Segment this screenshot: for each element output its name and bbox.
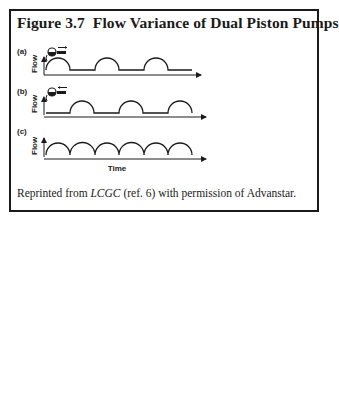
caption-prefix: Reprinted from <box>17 187 90 199</box>
figure-frame: Figure 3.7 Flow Variance of Dual Piston … <box>9 9 319 212</box>
panel-c-waveform <box>46 143 192 156</box>
flow-diagram: Flow Flow Flow Time <box>11 11 317 210</box>
panel-b-ylabel: Flow <box>30 94 39 113</box>
caption-journal: LCGC <box>90 187 120 199</box>
panel-a-waveform <box>46 58 192 70</box>
panel-c-plot <box>44 138 206 159</box>
panel-a-ylabel: Flow <box>30 54 39 73</box>
x-axis-label: Time <box>108 164 127 173</box>
caption-suffix: (ref. 6) with permission of Advanstar. <box>121 187 297 199</box>
panel-b-plot <box>44 97 206 117</box>
panel-a-plot <box>44 57 201 75</box>
panel-c-ylabel: Flow <box>30 136 39 155</box>
piston-reverse-icon <box>46 86 67 101</box>
panel-b-waveform <box>46 101 192 113</box>
figure-caption: Reprinted from LCGC (ref. 6) with permis… <box>17 187 296 199</box>
